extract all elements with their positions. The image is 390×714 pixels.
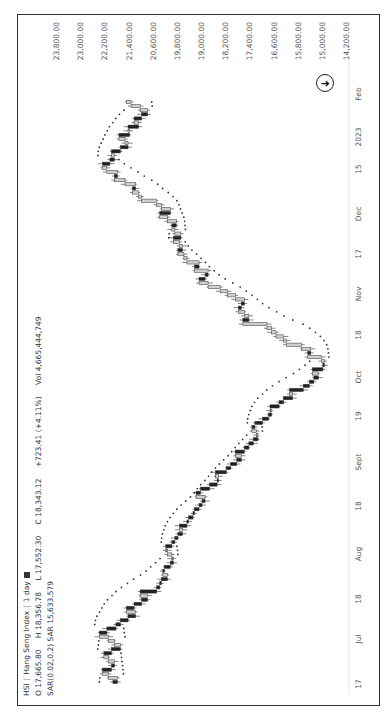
symbol: HSI — [22, 683, 31, 696]
sar-dot — [112, 122, 114, 124]
candle — [279, 401, 284, 404]
interval[interactable]: 1 day — [22, 581, 31, 602]
sar-dot — [168, 237, 170, 239]
volume-value: 4,665,444,749 — [34, 316, 43, 371]
sar-dot — [302, 323, 304, 325]
candle — [272, 331, 277, 334]
sar-dot — [247, 418, 249, 420]
sar-dot — [326, 344, 328, 346]
candle — [125, 183, 136, 186]
candle — [120, 619, 128, 622]
sar-dot — [145, 570, 147, 572]
candle — [302, 347, 311, 350]
candle — [205, 273, 208, 276]
candle — [252, 429, 257, 432]
sar-dot — [248, 414, 250, 416]
sar-dot — [106, 130, 108, 132]
candle — [175, 536, 178, 539]
candle — [120, 146, 128, 149]
open-value: 17,665.80 — [34, 650, 43, 688]
sar-dot — [115, 591, 117, 593]
sar-dot — [155, 562, 157, 564]
candle — [102, 672, 108, 675]
candle — [199, 277, 205, 280]
sar-dot — [262, 430, 264, 432]
candle — [179, 244, 182, 247]
candle — [172, 541, 175, 544]
sar-dot — [176, 200, 178, 202]
sar-dot — [239, 286, 241, 288]
sar-dot — [268, 307, 270, 309]
candle — [287, 343, 302, 346]
candle — [127, 606, 135, 609]
candle — [184, 257, 187, 260]
candle — [134, 121, 139, 124]
chart-stage: HSI|Hang Seng Index|1 day O 17,665.80 H … — [21, 18, 378, 704]
sar-dot — [96, 615, 98, 617]
sar-dot — [304, 364, 306, 366]
candle — [114, 174, 117, 177]
sar-dot — [184, 241, 186, 243]
sar-dot — [180, 208, 182, 210]
candle — [111, 647, 120, 650]
sar-dot — [242, 438, 244, 440]
candle — [108, 639, 114, 642]
sar-dot — [191, 249, 193, 251]
sar-dot — [98, 640, 100, 642]
sar-dot — [205, 262, 207, 264]
sar-dot — [262, 303, 264, 305]
sar-dot — [214, 467, 216, 469]
candle — [178, 532, 183, 535]
candle — [160, 582, 162, 585]
candle — [160, 216, 168, 219]
sar-dot — [121, 656, 123, 658]
candle — [231, 462, 237, 465]
sar-dot — [184, 225, 186, 227]
sar-dot — [227, 455, 229, 457]
sar-dot — [97, 150, 99, 152]
candle — [241, 302, 244, 305]
sar-indicator-label[interactable]: SAR(0.02,0.2) — [46, 644, 55, 696]
candle — [172, 228, 175, 231]
sar-dot — [245, 290, 247, 292]
candle — [111, 664, 114, 667]
sar-dot — [151, 105, 153, 107]
candle — [255, 421, 263, 424]
sar-dot — [102, 138, 104, 140]
candle — [269, 413, 272, 416]
candle — [170, 561, 173, 564]
candle — [194, 265, 199, 268]
sar-dot — [99, 611, 101, 613]
sar-dot — [238, 443, 240, 445]
low-value: 17,552.30 — [34, 536, 43, 574]
scroll-to-realtime-button[interactable]: ➜ — [316, 74, 334, 92]
sar-dot — [177, 554, 179, 556]
sar-dot — [120, 652, 122, 654]
candle — [308, 355, 322, 358]
candle — [187, 261, 199, 264]
sar-dot — [276, 311, 278, 313]
legend-toggle-icon[interactable] — [24, 572, 30, 578]
candle — [267, 327, 272, 330]
candle — [113, 680, 118, 683]
sar-dot — [187, 245, 189, 247]
candle — [201, 487, 210, 490]
candle — [235, 298, 244, 301]
sar-dot — [328, 356, 330, 358]
sar-dot — [257, 299, 259, 301]
sar-dot — [211, 471, 213, 473]
candle — [216, 475, 219, 478]
candle — [127, 610, 136, 613]
candle — [104, 656, 109, 659]
sar-dot — [208, 266, 210, 268]
candle — [194, 269, 208, 272]
sar-dot — [293, 373, 295, 375]
candle — [111, 154, 114, 157]
candle — [104, 652, 112, 655]
candle — [111, 150, 120, 153]
candlestick-plot[interactable] — [21, 18, 378, 704]
sar-dot — [309, 327, 311, 329]
sar-dot — [323, 340, 325, 342]
candle — [208, 286, 220, 289]
arrow-up-icon: ➜ — [320, 77, 329, 90]
